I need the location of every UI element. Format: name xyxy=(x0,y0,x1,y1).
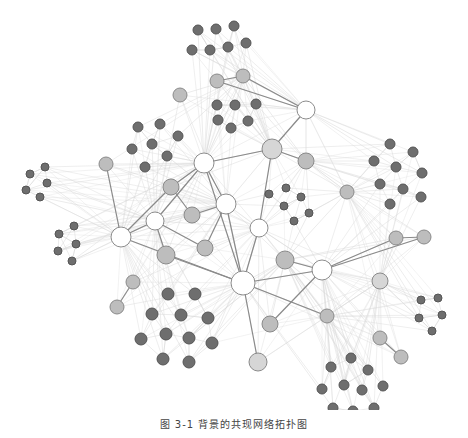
node-leaf-c10d xyxy=(339,380,349,390)
node-leaf-c10h xyxy=(328,403,338,410)
node-leaf-c2d xyxy=(213,115,223,125)
node-leaf-c6a xyxy=(265,190,273,198)
node-leaf-c3d xyxy=(127,144,137,154)
node-leaf-c8g xyxy=(160,328,172,340)
weak-edge xyxy=(133,282,243,283)
network-graph xyxy=(0,0,468,410)
node-hub-h6 xyxy=(111,227,131,247)
node-leaf-c9d xyxy=(438,311,446,319)
node-leaf-c10e xyxy=(357,385,367,395)
node-hub-h7 xyxy=(250,219,268,237)
node-mid-m6 xyxy=(163,179,179,195)
node-leaf-c8a xyxy=(162,288,174,300)
node-leaf-c10f xyxy=(317,384,327,394)
node-leaf-c10a xyxy=(346,353,356,363)
node-leaf-c3b xyxy=(155,119,165,129)
node-leaf-c10c xyxy=(363,365,373,375)
node-leaf-c5e xyxy=(68,257,76,265)
weak-edges xyxy=(26,26,442,410)
strong-edge xyxy=(106,164,121,237)
node-leaf-c7i xyxy=(385,199,395,209)
node-leaf-c8c xyxy=(146,308,158,320)
weak-edge xyxy=(258,228,259,362)
node-leaf-c5d xyxy=(54,247,62,255)
node-leaf-c7b xyxy=(408,147,418,157)
weak-edge xyxy=(205,248,285,260)
node-leaf-c8k xyxy=(183,356,195,368)
weak-edge xyxy=(306,110,422,173)
weak-edge xyxy=(74,221,155,226)
node-leaf-c4d xyxy=(43,179,51,187)
node-leaf-c4c xyxy=(22,186,30,194)
weak-edge xyxy=(117,237,121,307)
weak-edge xyxy=(368,281,380,370)
node-leaf-c9b xyxy=(434,294,442,302)
node-hub-h2 xyxy=(194,153,214,173)
nodes xyxy=(22,21,446,410)
weak-edge xyxy=(132,149,155,221)
weak-edge xyxy=(160,76,243,124)
node-mid-m19 xyxy=(373,331,387,345)
node-leaf-c7d xyxy=(391,162,401,172)
node-mid-m16 xyxy=(110,300,124,314)
node-leaf-c8e xyxy=(202,312,214,324)
node-leaf-c7a xyxy=(385,139,395,149)
node-mid_light-h3 xyxy=(262,139,282,159)
node-leaf-c3e xyxy=(147,139,157,149)
node-leaf-c8f xyxy=(135,333,147,345)
strong-edge xyxy=(259,149,272,228)
node-leaf-c3c xyxy=(173,131,183,141)
node-leaf-c3f xyxy=(162,151,172,161)
node-leaf-c6d xyxy=(280,202,288,210)
node-leaf-c4e xyxy=(36,193,44,201)
node-leaf-c1b xyxy=(211,24,221,34)
node-leaf-c9a xyxy=(417,296,425,304)
node-leaf-c7e xyxy=(417,168,427,178)
node-mid-m8 xyxy=(340,185,354,199)
node-hub-h5 xyxy=(146,212,164,230)
node-mid-m3 xyxy=(236,69,250,83)
node-leaf-c4b xyxy=(41,163,49,171)
node-leaf-c1g xyxy=(241,38,251,48)
node-leaf-c5b xyxy=(55,230,63,238)
node-leaf-c6c xyxy=(297,193,305,201)
node-leaf-c2c xyxy=(251,99,261,109)
weak-edge xyxy=(306,110,413,152)
node-leaf-c8i xyxy=(206,337,218,349)
node-leaf-c5a xyxy=(70,222,78,230)
weak-edge xyxy=(322,197,421,270)
node-leaf-c10i xyxy=(348,406,358,410)
weak-edge xyxy=(152,144,155,221)
figure-caption: 图 3-1 背景的共现网络拓扑图 xyxy=(0,416,468,431)
node-mid_light-m21 xyxy=(249,353,267,371)
node-mid_light-m14 xyxy=(372,273,388,289)
node-leaf-c1e xyxy=(205,45,215,55)
node-leaf-c1a xyxy=(193,25,203,35)
node-leaf-c1d xyxy=(187,45,197,55)
node-leaf-c9e xyxy=(428,327,436,335)
node-leaf-c2b xyxy=(230,100,240,110)
node-leaf-c6f xyxy=(290,217,298,225)
node-leaf-c9c xyxy=(415,314,423,322)
node-leaf-c8b xyxy=(189,288,201,300)
node-leaf-c8j xyxy=(157,353,169,365)
weak-edge xyxy=(166,283,243,334)
node-mid-m9 xyxy=(157,246,175,264)
node-leaf-c6e xyxy=(305,209,313,217)
node-leaf-c1f xyxy=(223,42,233,52)
weak-edge xyxy=(306,110,347,192)
node-hub-h8 xyxy=(231,271,255,295)
weak-edge xyxy=(306,110,374,161)
weak-edge xyxy=(380,281,442,315)
node-mid-m12 xyxy=(389,231,403,245)
node-leaf-c5c xyxy=(72,240,80,248)
node-mid-m10 xyxy=(197,240,213,256)
node-leaf-c4a xyxy=(26,170,34,178)
weak-edge xyxy=(306,161,422,173)
node-leaf-c2e xyxy=(243,116,253,126)
node-mid-m20 xyxy=(394,350,408,364)
node-mid-m2 xyxy=(210,74,224,88)
node-hub-h4 xyxy=(216,194,236,214)
weak-edge xyxy=(327,315,442,316)
node-mid-m17 xyxy=(320,309,334,323)
